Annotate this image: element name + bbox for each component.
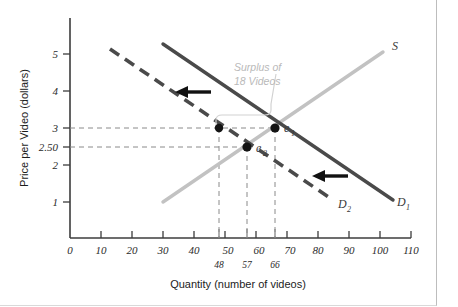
y-tick-label-2: 2 — [53, 159, 59, 171]
x-axis-ticks: 0 10 20 30 40 50 60 70 80 90 100 110 — [67, 231, 419, 256]
shift-arrow-upper — [175, 86, 211, 98]
demand2-curve-sub: 2 — [347, 205, 351, 214]
demand-curve-D2: D 2 — [110, 49, 351, 214]
x-tick-label-10: 10 — [96, 244, 108, 256]
x-tick-label-90: 90 — [344, 244, 356, 256]
point-e2 — [242, 142, 251, 151]
x-tick-label-80: 80 — [313, 244, 325, 256]
x-tick-label-70: 70 — [285, 244, 297, 256]
x-tick-label-110: 110 — [403, 244, 419, 256]
x-axis-title: Quantity (number of videos) — [170, 278, 306, 290]
point-e1-label: e — [284, 121, 290, 135]
y-tick-label-250: 2.50 — [39, 141, 59, 153]
y-tick-label-3: 3 — [52, 122, 59, 134]
demand2-line — [110, 49, 333, 200]
point-e2-sub: 2 — [263, 149, 267, 158]
x-tick-label-30: 30 — [157, 244, 170, 256]
shift-arrow-lower-head — [312, 170, 325, 182]
x-tick-label-60: 60 — [254, 244, 266, 256]
x-tick-label-57: 57 — [242, 260, 253, 270]
shift-arrow-lower — [312, 170, 348, 182]
x-tick-label-0: 0 — [67, 244, 73, 256]
x-tick-label-50: 50 — [223, 244, 235, 256]
x-tick-label-100: 100 — [372, 244, 389, 256]
supply-demand-chart: 1 2 2.50 3 4 5 0 10 20 30 40 50 60 — [0, 0, 458, 307]
x-tick-label-40: 40 — [189, 244, 201, 256]
supply-curve-label: S — [392, 39, 398, 53]
surplus-annotation: Surplus of 18 Videos — [234, 61, 282, 87]
axes — [70, 18, 411, 238]
surplus-annotation-line1: Surplus of — [234, 61, 282, 73]
y-axis-title: Price per Video (dollars) — [18, 69, 30, 187]
y-tick-label-1: 1 — [53, 196, 59, 208]
y-axis-ticks: 1 2 2.50 3 4 5 — [39, 48, 70, 208]
demand2-curve-label: D — [337, 197, 347, 211]
point-e1-sub: 1 — [291, 129, 295, 138]
x-tick-label-66: 66 — [270, 260, 280, 270]
demand1-curve-sub: 1 — [406, 203, 410, 212]
point-e1 — [270, 123, 279, 132]
y-tick-label-4: 4 — [53, 85, 59, 97]
demand1-curve-label: D — [396, 195, 406, 209]
point-surplus-quantity — [215, 124, 223, 132]
surplus-annotation-line2: 18 Videos — [234, 75, 281, 87]
chart-figure: 1 2 2.50 3 4 5 0 10 20 30 40 50 60 — [0, 0, 458, 307]
x-tick-label-20: 20 — [127, 244, 139, 256]
x-tick-label-48: 48 — [214, 260, 224, 270]
y-tick-label-5: 5 — [53, 48, 59, 60]
point-e2-label: e — [256, 141, 262, 155]
